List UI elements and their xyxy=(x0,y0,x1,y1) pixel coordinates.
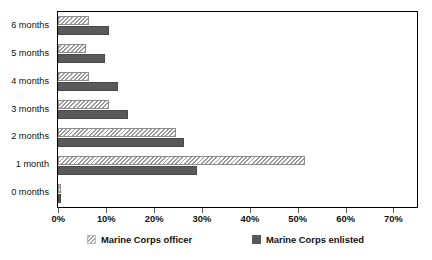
bar-enlisted-6-months xyxy=(58,26,108,35)
y-axis-label-2-months: 2 months xyxy=(11,131,49,141)
bar-officer-5-months xyxy=(58,44,86,53)
bar-officer-1-month xyxy=(58,156,305,165)
bar-officer-3-months xyxy=(58,100,108,109)
x-axis-label-3: 30% xyxy=(193,213,212,224)
solid-swatch-icon xyxy=(252,235,261,244)
bar-officer-6-months xyxy=(58,16,89,25)
bar-officer-4-months xyxy=(58,72,88,81)
legend-label-enlisted: Marine Corps enlisted xyxy=(266,234,364,245)
legend-entry-officer[interactable]: Marine Corps officer xyxy=(87,234,192,245)
bar-enlisted-1-month xyxy=(58,166,197,175)
y-axis-label-5-months: 5 months xyxy=(11,48,49,58)
horizontal-bar-chart: 0 months1 month2 months3 months4 months5… xyxy=(0,0,432,260)
y-axis-label-6-months: 6 months xyxy=(11,20,49,30)
chart-legend: Marine Corps officer Marine Corps enlist… xyxy=(57,234,418,252)
y-axis-label-4-months: 4 months xyxy=(11,76,49,86)
bar-officer-0-months xyxy=(58,184,60,193)
x-axis-label-7: 70% xyxy=(384,213,403,224)
x-axis-label-4: 40% xyxy=(240,213,259,224)
bar-enlisted-4-months xyxy=(58,82,117,91)
legend-entry-enlisted[interactable]: Marine Corps enlisted xyxy=(252,234,364,245)
x-axis-label-6: 60% xyxy=(336,213,355,224)
x-axis-label-5: 50% xyxy=(288,213,307,224)
y-axis-label-0-months: 0 months xyxy=(11,187,49,197)
bar-enlisted-5-months xyxy=(58,54,105,63)
y-axis-category-labels: 0 months1 month2 months3 months4 months5… xyxy=(0,11,53,208)
hatched-swatch-icon xyxy=(87,235,96,244)
x-axis-label-1: 10% xyxy=(97,213,116,224)
bar-enlisted-3-months xyxy=(58,110,127,119)
x-axis-label-2: 20% xyxy=(145,213,164,224)
bar-enlisted-2-months xyxy=(58,138,183,147)
y-axis-label-1-month: 1 month xyxy=(16,159,49,169)
bar-officer-2-months xyxy=(58,128,175,137)
bars-layer xyxy=(58,12,417,207)
legend-label-officer: Marine Corps officer xyxy=(101,234,192,245)
x-axis-label-0: 0% xyxy=(52,213,66,224)
y-axis-label-3-months: 3 months xyxy=(11,104,49,114)
bar-enlisted-0-months xyxy=(58,194,60,203)
